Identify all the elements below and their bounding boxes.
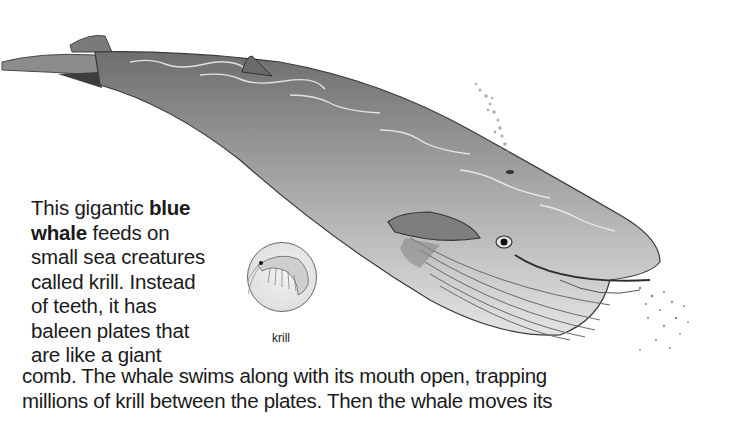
text-line: baleen plates that [31,319,246,344]
bold-term: blue [149,196,190,219]
text-line: feeds on [87,221,170,244]
text-line: millions of krill between the plates. Th… [22,388,734,413]
krill-inset [247,242,317,312]
text-line: of teeth, it has [31,294,246,319]
tail-fluke [2,35,112,88]
text-line: called krill. Instead [31,270,246,295]
krill-label: krill [272,331,290,345]
whale-eye [496,236,512,248]
description-paragraph: This gigantic blue whale feeds on small … [31,196,246,368]
blowhole [506,170,514,174]
text-line: This gigantic [31,196,149,219]
text-line: small sea creatures [31,245,246,270]
description-continued: comb. The whale swims along with its mou… [22,363,734,413]
bold-term: whale [31,221,87,244]
text-line: comb. The whale swims along with its mou… [22,363,734,388]
krill-icon [248,243,316,311]
krill-cloud [639,287,689,351]
